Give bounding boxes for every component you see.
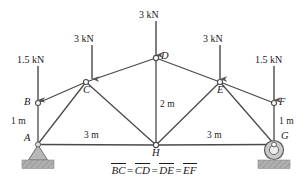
member-HG (156, 145, 274, 146)
joint-label-E: E (217, 85, 223, 96)
relation-equals-1: = (126, 164, 135, 176)
joint-label-C: C (83, 85, 90, 96)
member-CD (86, 58, 156, 82)
joint-B (36, 101, 41, 106)
joint-label-B: B (24, 97, 30, 108)
joint-label-F: F (279, 97, 285, 108)
load-label-B: 1.5 kN (17, 55, 44, 65)
joint-label-H: H (152, 148, 160, 159)
truss-diagram: 1.5 kN 3 kN 3 kN 3 kN 1.5 kN B C D E F A… (0, 0, 308, 187)
member-BC (38, 82, 86, 103)
dimension-label-FG: 1 m (279, 117, 294, 127)
truss-canvas (0, 0, 308, 187)
dimension-label-DH: 2 m (160, 100, 175, 110)
load-label-F: 1.5 kN (255, 55, 282, 65)
member-EF (220, 82, 274, 103)
relation-term-ef: EF (183, 163, 196, 177)
relation-term-cd: CD (135, 163, 150, 177)
load-label-D: 3 kN (139, 10, 159, 20)
dimension-label-AB: 1 m (11, 117, 26, 127)
member-EG (220, 82, 274, 144)
joint-label-G: G (281, 131, 289, 142)
dimension-label-AH: 3 m (84, 131, 99, 141)
load-label-C: 3 kN (74, 34, 94, 44)
member-DE (156, 58, 220, 82)
joint-label-D: D (161, 51, 169, 62)
joint-D (153, 55, 158, 60)
dimension-label-HG: 3 m (207, 131, 222, 141)
relation-equals-2: = (150, 164, 159, 176)
member-length-relation: BC=CD=DE=EF (0, 163, 308, 177)
relation-equals-3: = (174, 164, 183, 176)
member-AC (38, 82, 86, 144)
relation-term-de: DE (159, 163, 174, 177)
truss-members (38, 58, 274, 145)
member-AH (38, 145, 156, 146)
load-label-E: 3 kN (203, 34, 223, 44)
joint-label-A: A (24, 133, 30, 144)
joint-F (272, 101, 277, 106)
relation-term-bc: BC (111, 163, 125, 177)
